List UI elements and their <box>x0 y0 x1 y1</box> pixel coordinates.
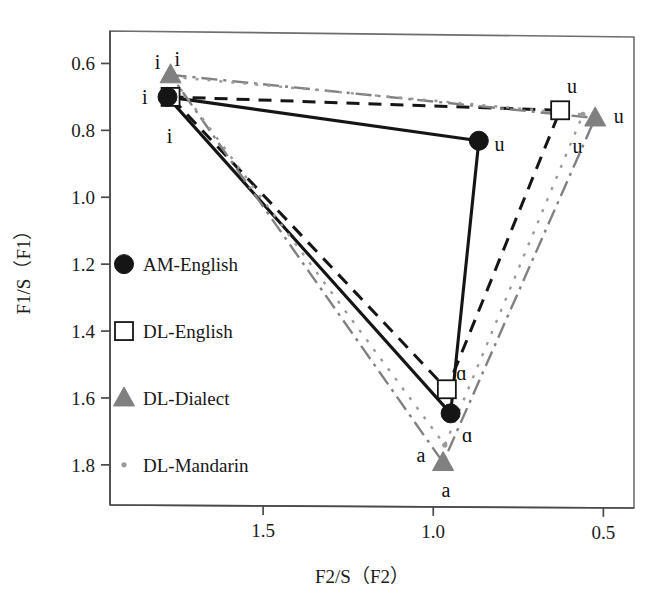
y-tick-label: 0.8 <box>71 120 95 141</box>
chart-canvas: 0.60.81.01.21.41.61.8 1.51.00.5 iiiiuuuu… <box>0 0 665 603</box>
vowel-label: u <box>567 75 577 97</box>
vowel-label: u <box>573 135 583 157</box>
data-point-dl-english-u <box>551 101 569 119</box>
legend-marker-open-square <box>115 322 133 340</box>
y-axis-title: F1/S（F1） <box>13 221 34 315</box>
x-axis-title: F2/S（F2） <box>315 566 409 587</box>
vowel-label: u <box>614 105 624 127</box>
data-point-dl-english-ɑ <box>438 380 456 398</box>
y-tick-label: 1.4 <box>71 321 95 342</box>
vowel-label: u <box>495 133 505 155</box>
vowel-label: a <box>441 479 450 501</box>
vowel-label: i <box>167 125 173 147</box>
vowel-label: a <box>417 444 426 466</box>
y-tick-label: 1.8 <box>71 455 95 476</box>
legend-label: DL-Mandarin <box>143 455 249 476</box>
vowel-space-chart: 0.60.81.01.21.41.61.8 1.51.00.5 iiiiuuuu… <box>0 0 665 603</box>
legend-label: DL-Dialect <box>143 388 230 409</box>
legend-label: DL-English <box>143 321 233 342</box>
vowel-label: ɑ <box>456 362 466 384</box>
y-tick-label: 1.2 <box>71 254 95 275</box>
x-tick-label: 1.5 <box>251 520 275 541</box>
data-point-am-english-i <box>158 87 177 106</box>
vowel-label: i <box>142 86 148 108</box>
legend-label: AM-English <box>143 254 239 275</box>
y-tick-label: 1.6 <box>71 388 95 409</box>
legend-item-dl-english: DL-English <box>115 321 233 342</box>
data-point-am-english-u <box>469 131 488 150</box>
legend-marker-filled-circle <box>115 255 134 274</box>
data-point-dl-mandarin-u <box>580 112 585 117</box>
y-tick-label: 0.6 <box>71 53 95 74</box>
vowel-label: i <box>175 48 181 70</box>
vowel-label: ɑ <box>462 424 472 446</box>
data-point-am-english-ɑ <box>441 404 460 423</box>
data-point-dl-mandarin-a <box>442 443 447 448</box>
y-tick-label: 1.0 <box>71 187 95 208</box>
vowel-label: i <box>155 51 161 73</box>
x-tick-label: 0.5 <box>592 522 616 543</box>
legend-marker-small-dot <box>121 462 126 467</box>
x-tick-label: 1.0 <box>421 521 445 542</box>
